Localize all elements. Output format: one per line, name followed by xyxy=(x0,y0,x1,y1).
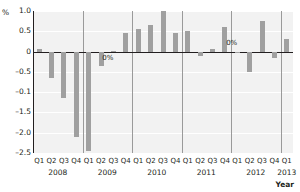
bar xyxy=(161,11,166,52)
bar xyxy=(247,52,252,72)
x-axis-year-label: 2009 xyxy=(95,169,119,177)
x-axis-year-label: 2010 xyxy=(145,169,169,177)
bar xyxy=(123,33,128,51)
bar xyxy=(235,52,240,53)
bar xyxy=(148,25,153,51)
gridline xyxy=(33,153,293,154)
gridline xyxy=(33,72,293,73)
zero-percent-annotation: 0% xyxy=(102,54,113,62)
bar xyxy=(86,52,91,151)
x-axis-title: Year xyxy=(275,181,294,189)
y-tick-label: –2.0 xyxy=(15,129,31,137)
bar xyxy=(210,49,215,52)
y-axis-line xyxy=(33,11,34,153)
y-tick-label: 0 xyxy=(26,48,31,56)
bar xyxy=(173,33,178,51)
y-tick-label: 1.0 xyxy=(19,7,31,15)
bar-chart: 1.00.50–0.5–0.1–1.5–2.0–2.5 % Q1Q2Q3Q4Q1… xyxy=(0,0,300,192)
bar xyxy=(111,51,116,52)
y-tick-label: –1.5 xyxy=(15,108,31,116)
y-tick-label: –0.1 xyxy=(15,88,31,96)
gridline xyxy=(33,112,293,113)
y-tick-label: 0.5 xyxy=(19,27,31,35)
bar xyxy=(61,52,66,99)
year-separator xyxy=(182,11,183,153)
gridline xyxy=(33,133,293,134)
bar xyxy=(136,29,141,51)
y-axis-unit-label: % xyxy=(2,9,9,17)
bar xyxy=(272,52,277,58)
bar xyxy=(37,49,42,52)
x-axis-year-label: 2013 xyxy=(275,169,299,177)
zero-percent-annotation: 0% xyxy=(226,39,237,47)
bar xyxy=(284,39,289,51)
y-tick-label: –0.5 xyxy=(15,68,31,76)
bar xyxy=(198,52,203,56)
zero-line xyxy=(33,52,293,53)
year-separator xyxy=(83,11,84,153)
bar xyxy=(185,31,190,51)
x-axis-year-label: 2011 xyxy=(194,169,218,177)
year-separator xyxy=(281,11,282,153)
y-tick-label: –2.5 xyxy=(15,149,31,157)
bar xyxy=(74,52,79,137)
y-axis-ticks: 1.00.50–0.5–0.1–1.5–2.0–2.5 xyxy=(0,0,31,192)
bar xyxy=(49,52,54,78)
bar xyxy=(260,21,265,51)
gridline xyxy=(33,92,293,93)
year-separator xyxy=(132,11,133,153)
plot-area xyxy=(33,11,293,153)
x-axis-year-label: 2012 xyxy=(244,169,268,177)
x-axis-year-label: 2008 xyxy=(46,169,70,177)
year-separator xyxy=(231,11,232,153)
x-tick-label: Q1 xyxy=(280,157,294,165)
